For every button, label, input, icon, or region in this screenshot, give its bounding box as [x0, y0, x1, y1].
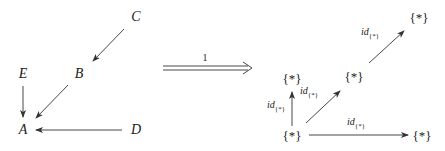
arrow-c-to-b [93, 29, 124, 61]
label-rA-rD: id{*} [347, 117, 365, 131]
node-b: B [75, 67, 84, 81]
right-node-a: {*} [283, 129, 302, 142]
right-node-e: {*} [283, 72, 302, 85]
node-e: E [19, 67, 28, 81]
functor-double-arrow [163, 62, 252, 74]
arrow-b-to-a [36, 85, 68, 118]
node-c: C [131, 10, 140, 24]
label-rA-rB: id{*} [300, 86, 318, 100]
functor-label: 1 [203, 52, 208, 63]
label-rA-rE: id{*} [267, 100, 285, 114]
node-d: D [131, 123, 141, 137]
label-rB-rC: id{*} [361, 27, 379, 41]
right-node-d: {*} [413, 129, 432, 142]
right-node-b: {*} [345, 70, 364, 83]
node-a: A [19, 123, 28, 137]
right-node-c: {*} [410, 11, 429, 24]
diagram-canvas [0, 0, 445, 151]
